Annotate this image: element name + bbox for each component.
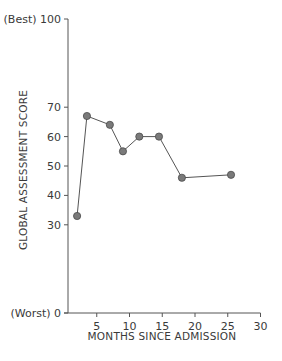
line-chart: (Worst) 03040506070(Best) 100 5101520253… <box>0 0 282 361</box>
y-tick-label: 60 <box>47 131 61 144</box>
x-tick-label: 30 <box>254 320 268 333</box>
y-tick-label: (Best) 100 <box>4 13 61 26</box>
data-series <box>74 112 235 219</box>
data-point-marker <box>136 133 143 140</box>
data-point-marker <box>119 148 126 155</box>
y-tick-label: 70 <box>47 101 61 114</box>
data-point-marker <box>106 121 113 128</box>
series-line <box>77 116 231 216</box>
y-tick-labels: (Worst) 03040506070(Best) 100 <box>4 13 61 320</box>
y-tick-label: (Worst) 0 <box>10 307 61 320</box>
data-point-marker <box>74 212 81 219</box>
data-point-marker <box>83 112 90 119</box>
y-tick-label: 30 <box>47 219 61 232</box>
y-tick-label: 40 <box>47 189 61 202</box>
data-point-marker <box>155 133 162 140</box>
data-point-marker <box>178 174 185 181</box>
y-axis-title: GLOBAL ASSESSMENT SCORE <box>17 90 29 250</box>
y-tick-label: 50 <box>47 160 61 173</box>
data-point-marker <box>227 171 234 178</box>
axes <box>64 19 261 317</box>
x-axis-title: MONTHS SINCE ADMISSION <box>88 330 237 342</box>
